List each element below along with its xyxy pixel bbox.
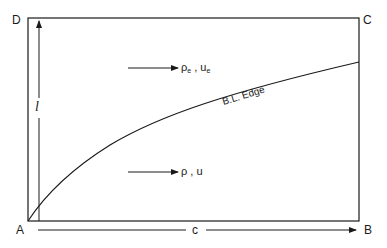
boundary-layer-diagram <box>0 0 387 248</box>
plate-rectangle <box>28 18 359 221</box>
inner-flow-label: ρ , u <box>181 166 203 177</box>
corner-label-d: D <box>12 14 21 26</box>
corner-label-a: A <box>16 224 24 236</box>
outer-velocity-subscript: e <box>206 67 210 74</box>
width-label: c <box>192 224 198 236</box>
corner-label-b: B <box>364 224 372 236</box>
outer-separator: , <box>191 61 200 73</box>
outer-flow-label: ρe , ue <box>181 62 210 74</box>
boundary-layer-edge-curve <box>28 62 359 221</box>
height-label: l <box>35 100 39 114</box>
corner-label-c: C <box>363 14 372 26</box>
inner-velocity: u <box>196 165 202 177</box>
